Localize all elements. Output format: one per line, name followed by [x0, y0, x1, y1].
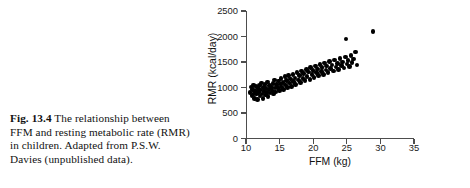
y-axis-title: RMR (kcal/day)	[207, 0, 218, 139]
data-point	[303, 78, 308, 83]
data-point	[266, 94, 271, 99]
data-point	[321, 72, 326, 77]
x-tick-label-25: 25	[335, 142, 359, 153]
x-tick-label-30: 30	[368, 142, 392, 153]
y-tick-2500	[241, 10, 246, 11]
x-tick-label-15: 15	[268, 142, 292, 153]
data-point	[347, 64, 352, 69]
figure-caption: Fig. 13.4 The relationship between FFM a…	[10, 112, 192, 166]
data-point	[351, 57, 356, 62]
data-point	[371, 29, 376, 34]
x-tick-label-20: 20	[301, 142, 325, 153]
figure-number: Fig. 13.4	[10, 112, 52, 124]
data-point	[344, 37, 349, 42]
data-point	[336, 67, 341, 72]
data-point	[355, 63, 360, 68]
data-point	[342, 66, 347, 71]
x-tick-label-10: 10	[234, 142, 258, 153]
data-point	[326, 70, 331, 75]
data-point	[353, 50, 358, 55]
y-tick-500	[241, 112, 246, 113]
y-tick-1500	[241, 61, 246, 62]
y-tick-2000	[241, 36, 246, 37]
x-tick-label-35: 35	[402, 142, 426, 153]
scatter-plot: 05001000150020002500101520253035 FFM (kg…	[196, 0, 470, 188]
y-tick-1000	[241, 87, 246, 88]
y-axis-line	[246, 11, 247, 139]
data-point	[331, 69, 336, 74]
x-axis-line	[246, 138, 414, 139]
x-axis-title: FFM (kg)	[246, 156, 414, 167]
data-point	[255, 97, 260, 102]
figure-container: Fig. 13.4 The relationship between FFM a…	[0, 0, 470, 188]
